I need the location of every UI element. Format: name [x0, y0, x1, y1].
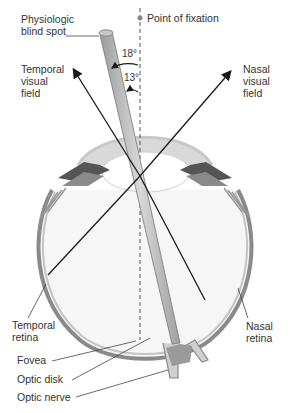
eye-illustration: [0, 0, 290, 413]
label-optic-disk: Optic disk: [17, 373, 63, 385]
angle-arc-13: [127, 90, 138, 92]
label-temporal-visual-field: Temporal visual field: [21, 63, 64, 99]
label-nasal-visual-field: Nasal visual field: [243, 63, 270, 99]
fixation-dot: [138, 16, 143, 21]
angle-label-18: 18°: [122, 48, 137, 59]
label-temporal-retina: Temporal retina: [12, 319, 55, 343]
label-optic-nerve: Optic nerve: [17, 391, 71, 403]
label-fovea: Fovea: [17, 354, 46, 366]
eyeball: [39, 137, 252, 378]
eye-visual-field-diagram: Physiologic blind spot Point of fixation…: [0, 0, 290, 413]
label-nasal-retina: Nasal retina: [246, 320, 273, 344]
label-point-of-fixation: Point of fixation: [147, 12, 219, 24]
angle-label-13: 13°: [124, 72, 139, 83]
label-physiologic-blind-spot: Physiologic blind spot: [21, 13, 74, 37]
